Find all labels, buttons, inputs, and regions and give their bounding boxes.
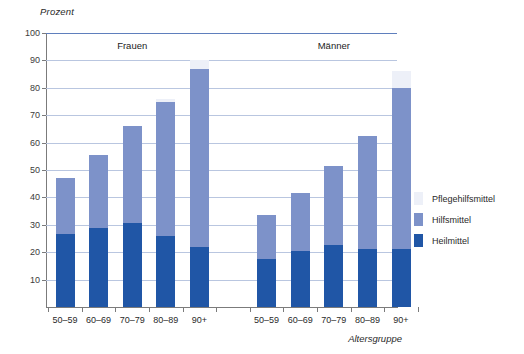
segment-hilfsmittel [156, 102, 175, 236]
y-tick-mark-60 [42, 143, 46, 144]
segment-hilfsmittel [123, 126, 142, 223]
y-tick-mark-100 [42, 33, 46, 34]
gridline-70 [46, 115, 397, 116]
y-tick-label-40: 40 [14, 192, 40, 202]
segment-heilmittel [324, 245, 343, 307]
segment-heilmittel [56, 234, 75, 307]
bar-maenner-90+ [392, 71, 411, 307]
bar-maenner-70–79 [324, 166, 343, 307]
bar-frauen-60–69 [89, 155, 108, 307]
segment-hilfsmittel [291, 193, 310, 251]
y-tick-mark-20 [42, 252, 46, 253]
segment-pflegehilfsmittel [156, 99, 175, 102]
segment-heilmittel [257, 259, 276, 307]
x-tick-11 [418, 307, 419, 312]
y-tick-label-100: 100 [14, 28, 40, 38]
x-axis-title: Altersgruppe [348, 333, 402, 344]
legend-label-pflegehilfsmittel: Pflegehilfsmittel [432, 194, 495, 204]
x-tick-2 [115, 307, 116, 312]
gridline-60 [46, 143, 397, 144]
y-tick-mark-90 [42, 60, 46, 61]
segment-pflegehilfsmittel [392, 71, 411, 87]
segment-heilmittel [89, 228, 108, 307]
y-tick-label-30: 30 [14, 220, 40, 230]
x-tick-1 [82, 307, 83, 312]
legend-label-heilmittel: Heilmittel [432, 236, 469, 246]
x-tick-8 [317, 307, 318, 312]
bar-maenner-60–69 [291, 193, 310, 307]
y-tick-label-80: 80 [14, 83, 40, 93]
segment-hilfsmittel [56, 178, 75, 234]
x-tick-3 [149, 307, 150, 312]
y-tick-mark-70 [42, 115, 46, 116]
y-tick-mark-40 [42, 197, 46, 198]
legend-item-heilmittel: Heilmittel [414, 230, 495, 251]
x-tick-4 [183, 307, 184, 312]
x-tick-6 [250, 307, 251, 312]
legend-swatch-hilfsmittel [414, 213, 423, 226]
x-axis-line [46, 307, 398, 308]
x-tick-10 [384, 307, 385, 312]
segment-heilmittel [291, 251, 310, 307]
segment-hilfsmittel [324, 166, 343, 245]
bar-frauen-70–79 [123, 126, 142, 307]
y-tick-mark-50 [42, 170, 46, 171]
y-tick-label-60: 60 [14, 138, 40, 148]
chart-figure: Prozent 102030405060708090100 50–5960–69… [0, 0, 524, 354]
bar-maenner-80–89 [358, 136, 377, 307]
segment-hilfsmittel [89, 155, 108, 228]
segment-heilmittel [156, 236, 175, 307]
y-tick-label-70: 70 [14, 110, 40, 120]
x-tick-7 [283, 307, 284, 312]
legend-swatch-heilmittel [414, 234, 423, 247]
segment-hilfsmittel [392, 88, 411, 250]
y-tick-mark-30 [42, 225, 46, 226]
group-title-maenner: Männer [289, 39, 379, 52]
legend-item-pflegehilfsmittel: Pflegehilfsmittel [414, 188, 495, 209]
bar-frauen-90+ [190, 60, 209, 307]
segment-hilfsmittel [257, 215, 276, 259]
bar-frauen-80–89 [156, 99, 175, 307]
segment-heilmittel [190, 247, 209, 307]
gridline-100 [46, 33, 397, 34]
gridline-90 [46, 60, 397, 61]
legend-swatch-pflegehilfsmittel [414, 192, 423, 205]
segment-heilmittel [392, 249, 411, 307]
chart-legend: PflegehilfsmittelHilfsmittelHeilmittel [414, 188, 495, 251]
y-tick-mark-10 [42, 280, 46, 281]
gridline-80 [46, 88, 397, 89]
segment-heilmittel [358, 249, 377, 307]
y-tick-label-20: 20 [14, 247, 40, 257]
y-tick-mark-80 [42, 88, 46, 89]
y-tick-label-50: 50 [14, 165, 40, 175]
x-tick-0 [48, 307, 49, 312]
x-axis-label-maenner-90+: 90+ [378, 315, 424, 325]
bar-maenner-50–59 [257, 215, 276, 307]
segment-pflegehilfsmittel [190, 60, 209, 68]
y-tick-label-10: 10 [14, 275, 40, 285]
plot-area [46, 33, 397, 307]
bar-frauen-50–59 [56, 178, 75, 307]
segment-hilfsmittel [190, 69, 209, 247]
group-title-frauen: Frauen [87, 39, 177, 52]
x-tick-5 [216, 307, 217, 312]
x-axis-label-frauen-90+: 90+ [176, 315, 222, 325]
legend-label-hilfsmittel: Hilfsmittel [432, 215, 471, 225]
segment-hilfsmittel [358, 136, 377, 250]
legend-item-hilfsmittel: Hilfsmittel [414, 209, 495, 230]
y-axis-title: Prozent [40, 6, 74, 17]
y-tick-label-90: 90 [14, 55, 40, 65]
x-tick-9 [351, 307, 352, 312]
segment-heilmittel [123, 223, 142, 307]
